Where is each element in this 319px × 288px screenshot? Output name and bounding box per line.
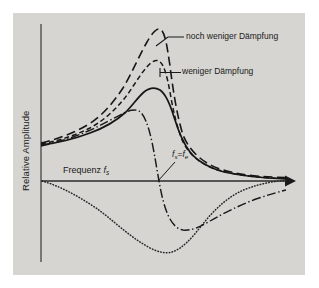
annotation-weniger-daempfung: weniger Dämpfung [182,67,253,76]
y-axis-label: Relative Amplitude [21,91,31,211]
leader-fs-fe [158,162,175,181]
curve-dashed-long [41,29,286,178]
x-axis-arrowhead [285,176,296,187]
annotation-resonance-point: fs=fe [172,150,188,160]
leader-noch-weniger [156,37,184,46]
annotation-noch-weniger-daempfung: noch weniger Dämpfung [186,32,278,41]
curve-dashed-short [41,60,286,178]
curve-dotted [42,181,286,253]
x-axis-label-text: Frequenz [63,165,101,175]
resonance-subscript-e: e [185,153,188,160]
plot-canvas [0,0,319,288]
x-axis-label: Frequenz fs [63,166,109,176]
x-axis-subscript: s [106,169,109,176]
resonance-curve-figure: noch weniger Dämpfung weniger Dämpfung F… [0,0,319,288]
